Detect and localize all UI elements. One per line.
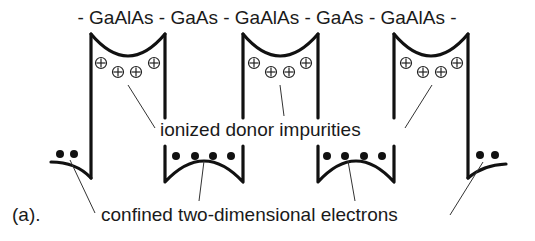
barrier-1-donors <box>96 58 160 78</box>
electron-icon <box>341 152 349 160</box>
electron-icon <box>476 151 484 159</box>
electron-icon <box>227 152 235 160</box>
well-2-curve <box>318 146 394 182</box>
electron-icon <box>360 152 368 160</box>
layer-sequence-label: - GaAlAs - GaAs - GaAlAs - GaAs - GaAlAs… <box>77 7 456 28</box>
barrier-3 <box>394 34 468 178</box>
barrier-1-curve <box>91 34 165 56</box>
donor-icon <box>401 58 412 69</box>
panel-label: (a). <box>12 204 41 225</box>
band-diagram-figure: - GaAlAs - GaAs - GaAlAs - GaAs - GaAlAs… <box>0 0 535 241</box>
electron-icon <box>209 152 217 160</box>
electron-icon <box>491 151 499 159</box>
barrier-2 <box>243 34 318 118</box>
donor-icon <box>452 58 463 69</box>
donor-icon <box>96 58 107 69</box>
electrons-label: confined two-dimensional electrons <box>101 204 398 225</box>
well-left-edge <box>51 150 91 178</box>
barrier-3-donors <box>401 58 463 78</box>
barrier-2-curve <box>243 34 318 56</box>
donor-icon <box>149 58 160 69</box>
donor-icon <box>436 67 447 78</box>
barrier-3-curve <box>394 34 468 56</box>
donor-impurities-label: ionized donor impurities <box>160 119 361 140</box>
band-diagram: - GaAlAs - GaAs - GaAlAs - GaAs - GaAlAs… <box>0 0 535 241</box>
well-right-edge <box>468 151 506 178</box>
barrier-2-donors <box>249 58 312 78</box>
donor-icon <box>249 58 260 69</box>
electron-icon <box>70 150 78 158</box>
well-left-edge-curve <box>51 162 91 178</box>
electron-icon <box>378 152 386 160</box>
barrier-1 <box>91 34 165 178</box>
donor-icon <box>301 58 312 69</box>
electron-icon <box>172 152 180 160</box>
donor-icon <box>284 67 295 78</box>
electron-icon <box>191 152 199 160</box>
well-2 <box>318 146 394 182</box>
donor-icon <box>266 67 277 78</box>
donor-icon <box>131 67 142 78</box>
electron-icon <box>323 152 331 160</box>
electron-icon <box>56 150 64 158</box>
donor-icon <box>113 67 124 78</box>
well-right-edge-curve <box>468 164 506 178</box>
donor-icon <box>418 67 429 78</box>
